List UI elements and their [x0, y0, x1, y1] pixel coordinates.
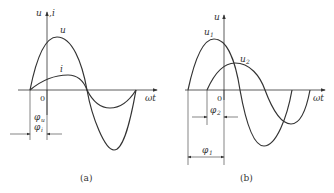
curve-label-u: u	[60, 25, 66, 35]
curve-label-u1-sub: 1	[210, 31, 214, 38]
panel-b-labels: u ωt 0 u 1 u 2 φ 2 φ 1 (b)	[202, 12, 324, 183]
phase-label-phi-sub-i: i	[41, 126, 43, 133]
curve-u2	[207, 63, 310, 124]
curve-label-u2-sub: 2	[245, 58, 250, 65]
sinusoid-phase-diagram: u , i ωt 0 u i φ u φ i (a) u ωt 0 u 1 u	[0, 0, 334, 193]
panel-b	[185, 15, 325, 165]
phase-label-phi-sub-u: u	[41, 116, 45, 123]
curve-label-i: i	[60, 64, 63, 74]
y-axis-label-i-a: i	[52, 8, 55, 18]
origin-label-a: 0	[40, 94, 45, 103]
curve-u	[30, 37, 136, 150]
caption-a: (a)	[80, 173, 92, 183]
phase-label-phi: φ	[34, 112, 41, 122]
y-axis-label-u-b: u	[214, 12, 220, 22]
diagram-svg: u , i ωt 0 u i φ u φ i (a) u ωt 0 u 1 u	[0, 0, 334, 193]
panel-a-labels: u , i ωt 0 u i φ u φ i (a)	[34, 8, 156, 183]
x-axis-label-b: ωt	[313, 93, 324, 103]
curve-i	[30, 75, 136, 108]
caption-b: (b)	[240, 173, 253, 183]
origin-label-b: 0	[217, 94, 222, 103]
phase-label-phi1: φ	[202, 145, 209, 155]
y-axis-label-u-a: u	[36, 8, 42, 18]
phase-label-phi2: φ	[210, 105, 217, 115]
x-axis-label-a: ωt	[145, 93, 156, 103]
panel-a	[10, 12, 157, 150]
phase-label-phi2-sub: 2	[216, 109, 221, 116]
phase-label-phi1-sub: 1	[209, 149, 213, 156]
phase-label-phi: φ	[34, 122, 41, 132]
